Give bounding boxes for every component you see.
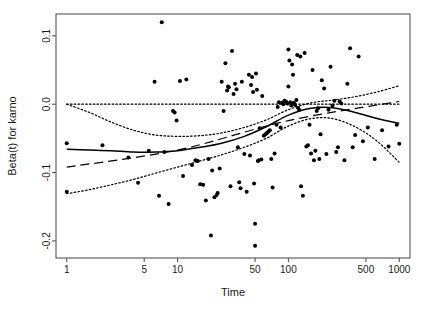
- data-point: [181, 174, 185, 178]
- data-point: [294, 98, 298, 102]
- data-point: [228, 184, 232, 188]
- y-axis-title: Beta(t) for karno: [6, 96, 18, 175]
- data-point: [239, 186, 243, 190]
- data-point: [227, 85, 231, 89]
- data-point: [210, 169, 214, 173]
- data-point: [313, 149, 317, 153]
- data-point: [301, 194, 305, 198]
- data-point: [175, 119, 179, 123]
- data-point: [286, 84, 290, 88]
- schoenfeld-residual-plot: 1510501005001000 0.10.0-0.1-0.2 Time Bet…: [0, 0, 430, 309]
- data-point: [357, 54, 361, 58]
- data-point: [287, 58, 291, 62]
- data-point: [249, 83, 253, 87]
- data-point: [157, 194, 161, 198]
- data-point: [136, 181, 140, 185]
- data-point: [220, 80, 224, 84]
- x-tick-label: 10: [172, 264, 184, 275]
- data-point: [250, 75, 254, 79]
- data-point: [324, 152, 328, 156]
- x-tick-label: 100: [280, 264, 297, 275]
- y-tick-label: -0.1: [42, 164, 53, 182]
- data-point: [153, 80, 157, 84]
- data-point: [255, 88, 259, 92]
- data-point: [380, 128, 384, 132]
- x-tick-label: 1000: [388, 264, 411, 275]
- x-tick-label: 500: [358, 264, 375, 275]
- data-point: [339, 102, 343, 106]
- data-point: [397, 142, 401, 146]
- data-point: [290, 63, 294, 67]
- data-point: [288, 100, 292, 104]
- data-point: [160, 20, 164, 24]
- data-point: [351, 145, 355, 149]
- data-point: [234, 87, 238, 91]
- data-point: [184, 78, 188, 82]
- data-point: [260, 94, 264, 98]
- data-point: [336, 145, 340, 149]
- data-point: [248, 153, 252, 157]
- data-point: [317, 157, 321, 161]
- data-point: [320, 78, 324, 82]
- data-point: [225, 89, 229, 93]
- data-point: [201, 183, 205, 187]
- data-point: [387, 145, 391, 149]
- data-point: [209, 233, 213, 237]
- data-point: [327, 108, 331, 112]
- data-point: [178, 79, 182, 83]
- data-point: [303, 51, 307, 55]
- data-point: [366, 125, 370, 129]
- data-point: [254, 71, 258, 75]
- data-point: [299, 184, 303, 188]
- y-tick-label: -0.2: [42, 232, 53, 250]
- data-point: [271, 186, 275, 190]
- data-point: [268, 128, 272, 132]
- data-point: [306, 143, 310, 147]
- data-point: [204, 199, 208, 203]
- data-point: [308, 123, 312, 127]
- data-point: [348, 46, 352, 50]
- data-point: [286, 48, 290, 52]
- data-point: [222, 109, 226, 113]
- data-point: [245, 190, 249, 194]
- data-point: [273, 151, 277, 155]
- data-point: [322, 87, 326, 91]
- data-point: [173, 110, 177, 114]
- data-point: [311, 68, 315, 72]
- data-point: [269, 157, 273, 161]
- data-point: [167, 202, 171, 206]
- data-point: [237, 180, 241, 184]
- data-point: [232, 92, 236, 96]
- data-point: [309, 151, 313, 155]
- data-point: [252, 182, 256, 186]
- data-point: [361, 139, 365, 143]
- data-point: [253, 222, 257, 226]
- x-tick-label: 50: [249, 264, 261, 275]
- data-point: [342, 158, 346, 162]
- data-point: [242, 152, 246, 156]
- data-point: [277, 100, 281, 104]
- data-point: [65, 141, 69, 145]
- data-point: [233, 82, 237, 86]
- data-point: [345, 82, 349, 86]
- data-point: [334, 150, 338, 154]
- x-tick-label: 5: [141, 264, 147, 275]
- y-tick-label: 0.1: [42, 28, 53, 42]
- data-point: [218, 166, 222, 170]
- data-point: [373, 157, 377, 161]
- data-point: [319, 132, 323, 136]
- data-point: [259, 158, 263, 162]
- data-point: [312, 158, 316, 162]
- data-point: [329, 65, 333, 69]
- plot-background: [0, 0, 430, 309]
- data-point: [240, 80, 244, 84]
- x-tick-label: 1: [64, 264, 70, 275]
- data-point: [298, 54, 302, 58]
- data-point: [353, 133, 357, 137]
- x-axis-title: Time: [221, 286, 245, 298]
- data-point: [230, 49, 234, 53]
- data-point: [276, 105, 280, 109]
- y-tick-label: 0.0: [42, 97, 53, 111]
- data-point: [251, 90, 255, 94]
- data-point: [253, 244, 257, 248]
